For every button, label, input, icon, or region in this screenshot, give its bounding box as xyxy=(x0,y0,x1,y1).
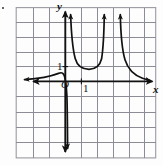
coordinate-plane-figure xyxy=(0,0,163,165)
origin-label: O xyxy=(61,79,69,90)
corner-marker-dot xyxy=(2,7,4,9)
y-axis-label: y xyxy=(57,1,62,12)
figure-panel: y x O 1 1 xyxy=(0,0,163,165)
x-tick-label-1: 1 xyxy=(83,83,89,94)
axes xyxy=(33,12,153,153)
curve-right-branch xyxy=(120,15,150,81)
grid-vertical xyxy=(33,8,144,158)
x-axis-label: x xyxy=(153,84,159,95)
y-tick-label-1: 1 xyxy=(57,61,63,72)
